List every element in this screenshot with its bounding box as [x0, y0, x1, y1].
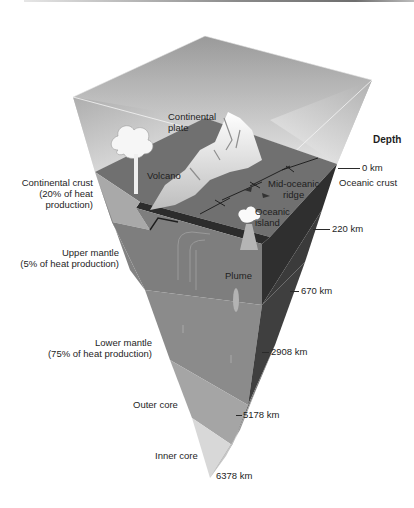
- label-plume: Plume: [225, 270, 252, 281]
- layer-detail: production): [15, 199, 93, 210]
- layer-detail: (75% of heat production): [40, 348, 152, 359]
- depth-label-220: 220 km: [332, 223, 363, 234]
- depth-label-2908: 2908 km: [271, 346, 307, 357]
- layer-name: Upper mantle: [10, 247, 119, 258]
- depth-label-670: 670 km: [301, 285, 332, 296]
- label-line: Mid-oceanic: [268, 178, 319, 189]
- label-lower-mantle: Lower mantle (75% of heat production): [40, 337, 152, 359]
- label-outer-core: Outer core: [133, 399, 178, 410]
- label-continental-plate: Continental plate: [168, 111, 216, 133]
- depth-tick-220: [313, 229, 330, 230]
- label-line: plate: [168, 122, 216, 133]
- layer-detail: (20% of heat: [15, 188, 93, 199]
- label-line: Continental: [168, 111, 216, 122]
- label-line: ridge: [268, 189, 319, 200]
- label-line: Oceanic: [255, 206, 290, 217]
- label-volcano: Volcano: [147, 170, 181, 181]
- depth-tick-670: [290, 291, 299, 292]
- label-upper-mantle: Upper mantle (5% of heat production): [10, 247, 119, 269]
- depth-heading: Depth: [373, 134, 401, 145]
- label-continental-crust: Continental crust (20% of heat productio…: [15, 177, 93, 210]
- layer-name: Lower mantle: [40, 337, 152, 348]
- depth-label-0: 0 km: [362, 162, 383, 173]
- depth-tick-0: [338, 168, 360, 169]
- depth-label-6378: 6378 km: [216, 470, 252, 481]
- layer-detail: (5% of heat production): [10, 258, 119, 269]
- label-inner-core: Inner core: [155, 450, 198, 461]
- label-oceanic-island: Oceanic island: [255, 206, 290, 228]
- depth-label-5178: 5178 km: [243, 409, 279, 420]
- label-line: island: [255, 217, 290, 228]
- depth-tick-5178: [236, 415, 242, 416]
- depth-tick-2908: [262, 352, 269, 353]
- layer-name: Continental crust: [15, 177, 93, 188]
- label-oceanic-crust: Oceanic crust: [339, 177, 397, 188]
- label-mid-oceanic-ridge: Mid-oceanic ridge: [268, 178, 319, 200]
